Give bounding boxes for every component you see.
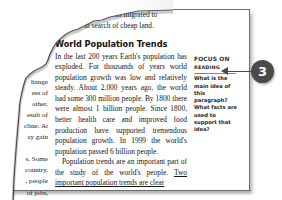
left-fragment: cline. At bbox=[3, 121, 48, 132]
body-paragraph-1: In the last 200 years Earth's population… bbox=[55, 52, 187, 157]
body-paragraph-2: Population trends are an important part … bbox=[55, 157, 187, 189]
left-partial-column: hange ess of other. esult of cline. At a… bbox=[3, 66, 48, 200]
section-heading: World Population Trends bbox=[55, 39, 187, 49]
sidebar-heading: Focus on Reading bbox=[194, 56, 238, 71]
continued-line: Australia in search of cheap land. bbox=[55, 21, 187, 32]
main-text-column: of British citizens migrated to Australi… bbox=[55, 10, 187, 189]
sidebar-question: What is the main idea of this paragraph?… bbox=[194, 75, 238, 133]
sidebar-heading-line-2: Reading bbox=[194, 64, 220, 70]
left-fragment: , people bbox=[3, 176, 48, 187]
left-fragment: ay gain bbox=[3, 132, 48, 143]
left-fragment: country, bbox=[3, 165, 48, 176]
left-fragment: s. Some bbox=[3, 154, 48, 165]
callout-number-badge: 3 bbox=[251, 60, 274, 83]
paragraph-2-lead: Population trends are an important part … bbox=[55, 157, 187, 177]
continued-line: of British citizens migrated to bbox=[55, 10, 187, 21]
callout-arrow-icon bbox=[221, 67, 228, 75]
left-fragment: other. bbox=[3, 99, 48, 110]
textbook-page: hange ess of other. esult of cline. At a… bbox=[0, 0, 282, 200]
left-fragment: ommon bbox=[3, 199, 48, 200]
left-fragment: of jobs, bbox=[3, 188, 48, 199]
sidebar-heading-line-1: Focus on bbox=[194, 56, 230, 62]
sidebar-divider bbox=[194, 73, 236, 74]
left-fragment: hange bbox=[3, 77, 48, 88]
continued-paragraph: of British citizens migrated to Australi… bbox=[55, 10, 187, 31]
focus-on-reading-sidebar: Focus on Reading What is the main idea o… bbox=[194, 56, 238, 133]
left-fragment: esult of bbox=[3, 110, 48, 121]
left-fragment: ess of bbox=[3, 88, 48, 99]
